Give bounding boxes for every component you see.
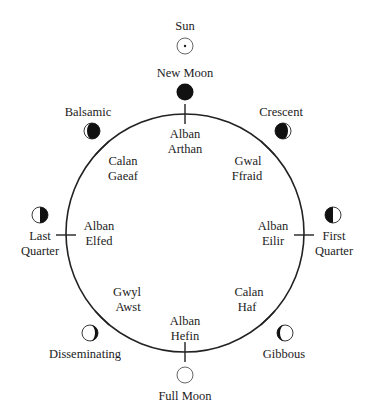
festival-bottom-line2: Hefin — [171, 329, 200, 343]
festival-bottom-left-line2: Awst — [115, 300, 141, 314]
festival-top-right-line2: Ffraid — [232, 169, 263, 183]
festival-top-right-line1: Gwal — [234, 154, 262, 168]
balsamic-label: Balsamic — [65, 105, 112, 119]
festival-bottom-right-line1: Calan — [234, 285, 264, 299]
full-moon-icon — [177, 367, 193, 383]
lunar-festival-wheel: Sun New Moon Crescent Balsamic Last Quar… — [0, 0, 371, 419]
tick-top-right — [261, 141, 275, 155]
new-moon-label: New Moon — [157, 66, 214, 80]
festival-bottom-left-line1: Gwyl — [113, 285, 141, 299]
festival-left-line1: Alban — [84, 219, 115, 233]
sun-label: Sun — [175, 19, 195, 33]
balsamic-moon-icon — [84, 123, 100, 139]
festival-right-line2: Eilir — [262, 234, 285, 248]
crescent-label: Crescent — [259, 105, 303, 119]
festival-top-left-line1: Calan — [108, 154, 138, 168]
last-quarter-label-line1: Last — [29, 229, 51, 243]
disseminating-label: Disseminating — [49, 347, 122, 361]
last-quarter-moon-icon — [32, 207, 48, 223]
festival-left-line2: Elfed — [85, 234, 113, 248]
crescent-moon-icon — [275, 123, 291, 139]
festival-bottom-line1: Alban — [170, 314, 201, 328]
festival-right-line1: Alban — [258, 219, 289, 233]
festival-top-line1: Alban — [170, 127, 201, 141]
gibbous-label: Gibbous — [263, 347, 306, 361]
first-quarter-moon-icon — [325, 207, 341, 223]
tick-bottom-right — [261, 311, 275, 325]
full-moon-label: Full Moon — [158, 389, 212, 403]
tick-bottom-left — [95, 311, 109, 325]
festival-top-left-line2: Gaeaf — [108, 169, 139, 183]
first-quarter-label-line1: First — [323, 229, 346, 243]
first-quarter-label-line2: Quarter — [315, 244, 354, 258]
new-moon-icon — [177, 84, 194, 101]
last-quarter-label-line2: Quarter — [21, 244, 60, 258]
gibbous-moon-icon — [277, 325, 293, 341]
sun-icon — [177, 38, 193, 54]
disseminating-moon-icon — [82, 325, 98, 341]
tick-top-left — [95, 141, 109, 155]
festival-top-line2: Arthan — [168, 142, 203, 156]
festival-bottom-right-line2: Haf — [238, 300, 258, 314]
